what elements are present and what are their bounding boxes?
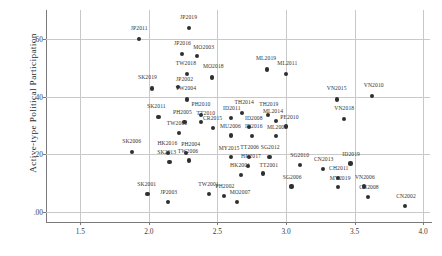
scatter-point[interactable] bbox=[265, 67, 269, 71]
scatter-point-label: TW2000 bbox=[167, 120, 187, 126]
scatter-point-label: VN2006 bbox=[355, 174, 375, 180]
y-tick-label: .20 bbox=[34, 150, 43, 159]
scatter-point-label: TW2006 bbox=[178, 148, 198, 154]
scatter-point[interactable] bbox=[177, 131, 181, 135]
scatter-plot-figure: Active-type Political Participation .00.… bbox=[0, 0, 442, 256]
plot-area: .00.20.40.60JP2011JP2019JP2016MO2003TW20… bbox=[46, 10, 430, 222]
scatter-point[interactable] bbox=[229, 116, 233, 120]
scatter-point-label: VN2018 bbox=[334, 105, 354, 111]
x-tick-label: 3.5 bbox=[350, 227, 359, 236]
scatter-point-label: HK2016 bbox=[157, 140, 177, 146]
scatter-point[interactable] bbox=[180, 52, 184, 56]
scatter-point[interactable] bbox=[267, 155, 271, 159]
scatter-point[interactable] bbox=[166, 200, 170, 204]
gridline-horizontal bbox=[46, 154, 430, 155]
scatter-point[interactable] bbox=[239, 173, 243, 177]
scatter-point-label: PH2002 bbox=[215, 183, 234, 189]
scatter-point-label: JP2011 bbox=[131, 25, 148, 31]
scatter-point-label: CH2011 bbox=[329, 165, 348, 171]
scatter-point[interactable] bbox=[185, 97, 189, 101]
x-tick-label: 4.0 bbox=[419, 227, 428, 236]
scatter-point[interactable] bbox=[187, 26, 191, 30]
scatter-point-label: MY2019 bbox=[330, 175, 351, 181]
scatter-point[interactable] bbox=[150, 86, 154, 90]
scatter-point[interactable] bbox=[195, 54, 199, 58]
scatter-point-label: TW2004 bbox=[176, 85, 196, 91]
scatter-point-label: CN2013 bbox=[314, 156, 334, 162]
scatter-point-label: PH2005 bbox=[173, 109, 192, 115]
scatter-point-label: PH2004 bbox=[181, 141, 200, 147]
scatter-point-label: ML2014 bbox=[263, 108, 283, 114]
x-tick-label: 1.5 bbox=[76, 227, 85, 236]
y-tick-mark bbox=[43, 97, 46, 98]
scatter-point-label: SK2019 bbox=[138, 74, 157, 80]
scatter-point[interactable] bbox=[274, 119, 278, 123]
scatter-point[interactable] bbox=[336, 185, 340, 189]
scatter-point-label: MO2018 bbox=[203, 63, 224, 69]
scatter-point[interactable] bbox=[240, 111, 244, 115]
scatter-point-label: TH2019 bbox=[259, 101, 278, 107]
scatter-point-label: ID2019 bbox=[342, 151, 360, 157]
x-tick-label: 3.0 bbox=[281, 227, 290, 236]
scatter-point-label: JP2003 bbox=[160, 189, 177, 195]
gridline-vertical bbox=[355, 10, 356, 222]
y-tick-label: .40 bbox=[34, 92, 43, 101]
y-tick-mark bbox=[43, 212, 46, 213]
scatter-point-label: CN2002 bbox=[396, 193, 416, 199]
scatter-point[interactable] bbox=[211, 126, 215, 130]
scatter-point[interactable] bbox=[210, 75, 214, 79]
scatter-point[interactable] bbox=[167, 160, 171, 164]
scatter-point[interactable] bbox=[137, 37, 141, 41]
scatter-point[interactable] bbox=[229, 155, 233, 159]
x-axis-line bbox=[46, 222, 432, 223]
scatter-point[interactable] bbox=[321, 167, 325, 171]
scatter-point-label: ML2019 bbox=[256, 55, 276, 61]
scatter-point-label: SG2006 bbox=[283, 174, 302, 180]
x-tick-mark bbox=[286, 222, 287, 225]
scatter-point[interactable] bbox=[274, 134, 278, 138]
scatter-point-label: SG2012 bbox=[261, 144, 280, 150]
scatter-point-label: TW2018 bbox=[176, 60, 196, 66]
gridline-vertical bbox=[149, 10, 150, 222]
scatter-point[interactable] bbox=[289, 184, 293, 188]
x-tick-mark bbox=[149, 222, 150, 225]
scatter-point-label: JP2002 bbox=[176, 76, 193, 82]
x-tick-label: 2.0 bbox=[144, 227, 153, 236]
scatter-point[interactable] bbox=[348, 161, 352, 165]
scatter-point-label: VN2010 bbox=[364, 82, 384, 88]
scatter-point[interactable] bbox=[229, 133, 233, 137]
scatter-point-label: MO2003 bbox=[193, 44, 214, 50]
scatter-point[interactable] bbox=[261, 171, 265, 175]
scatter-point[interactable] bbox=[222, 194, 226, 198]
x-tick-mark bbox=[355, 222, 356, 225]
scatter-point[interactable] bbox=[235, 200, 239, 204]
scatter-point-label: ID2011 bbox=[223, 105, 240, 111]
scatter-point[interactable] bbox=[298, 163, 302, 167]
scatter-point-label: TT2006 bbox=[240, 144, 259, 150]
scatter-point-label: MU2006 bbox=[220, 123, 241, 129]
scatter-point-label: ML2007 bbox=[267, 124, 287, 130]
gridline-horizontal bbox=[46, 39, 430, 40]
scatter-point[interactable] bbox=[366, 195, 370, 199]
gridline-vertical bbox=[80, 10, 81, 222]
x-tick-mark bbox=[80, 222, 81, 225]
y-tick-label: .60 bbox=[34, 34, 43, 43]
y-tick-mark bbox=[43, 39, 46, 40]
scatter-point-label: SK2011 bbox=[147, 103, 166, 109]
scatter-point[interactable] bbox=[342, 117, 346, 121]
scatter-point[interactable] bbox=[187, 158, 191, 162]
scatter-point[interactable] bbox=[145, 192, 149, 196]
scatter-point-label: CR2015 bbox=[203, 115, 222, 121]
scatter-point[interactable] bbox=[156, 115, 160, 119]
scatter-point[interactable] bbox=[284, 72, 288, 76]
scatter-point-label: PH2010 bbox=[191, 101, 210, 107]
scatter-point-label: JP2016 bbox=[174, 40, 191, 46]
scatter-point-label: TH2014 bbox=[235, 99, 254, 105]
scatter-point[interactable] bbox=[250, 134, 254, 138]
scatter-point-label: MY2015 bbox=[219, 145, 240, 151]
scatter-point[interactable] bbox=[403, 204, 407, 208]
scatter-point-label: ML2011 bbox=[277, 60, 297, 66]
scatter-point[interactable] bbox=[207, 192, 211, 196]
scatter-point[interactable] bbox=[335, 97, 339, 101]
scatter-point-label: PE2010 bbox=[280, 114, 298, 120]
